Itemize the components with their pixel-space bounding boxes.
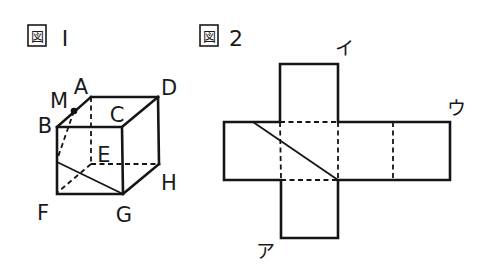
label-H: H	[161, 171, 177, 195]
label-A: A	[74, 75, 89, 99]
figure-2: 図 2 イ ウ ア	[200, 25, 466, 262]
figure-1-number: I	[62, 26, 69, 51]
label-G: G	[116, 203, 132, 227]
label-E: E	[97, 143, 110, 167]
label-M: M	[50, 89, 68, 113]
edge-HG	[123, 164, 159, 194]
label-C: C	[110, 103, 125, 127]
label-D: D	[161, 76, 177, 100]
diagram-canvas: 図 I A B C D E F G H M 図 2	[0, 0, 495, 279]
label-B: B	[38, 114, 52, 138]
figure-2-kanji: 図	[203, 29, 216, 44]
figure-2-number: 2	[229, 26, 243, 51]
label-F: F	[37, 201, 49, 225]
label-a: ア	[256, 240, 275, 262]
figure-1-title: 図 I	[28, 25, 68, 51]
cut-line-BF-to-G	[57, 162, 123, 194]
front-face-BCGF	[57, 127, 123, 194]
figure-1: 図 I A B C D E F G H M	[28, 25, 177, 227]
net-cut-line	[253, 122, 338, 180]
edge-EF-hidden	[58, 164, 91, 192]
fold-line-left	[280, 122, 281, 180]
figure-1-kanji: 図	[31, 29, 44, 44]
net-outline	[224, 64, 450, 238]
edge-DH	[158, 97, 159, 164]
edge-DC	[122, 97, 158, 127]
label-i: イ	[335, 37, 354, 59]
label-u: ウ	[447, 97, 466, 119]
point-M	[71, 108, 78, 115]
figure-2-title: 図 2	[200, 25, 243, 51]
